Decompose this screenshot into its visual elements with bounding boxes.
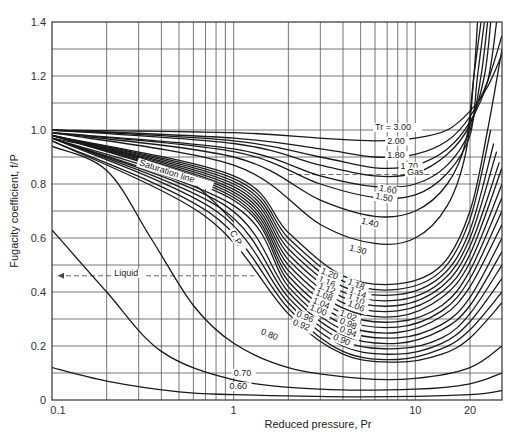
curve-label: 0.80 bbox=[259, 326, 279, 342]
y-axis-ticks: 00.20.40.60.81.01.21.4 bbox=[31, 16, 46, 406]
y-tick-label: 1.0 bbox=[31, 124, 46, 136]
y-axis-title: Fugacity coefficient, f/P bbox=[8, 154, 20, 268]
y-tick-label: 0.2 bbox=[31, 340, 46, 352]
curve-tr-1.20 bbox=[52, 49, 502, 285]
curve-label: 1.40 bbox=[360, 215, 380, 229]
curve-tr-0.92 bbox=[52, 141, 502, 360]
x-axis-ticks: 0.111020 bbox=[50, 404, 476, 416]
x-tick-label: 1 bbox=[231, 404, 237, 416]
y-tick-label: 1.4 bbox=[31, 16, 46, 28]
curve-label: Liquid bbox=[114, 268, 138, 278]
x-tick-label: 10 bbox=[409, 404, 421, 416]
curve-tr-1.40 bbox=[52, 22, 481, 217]
curve-tr-3.00 bbox=[52, 54, 502, 140]
y-tick-label: 0.4 bbox=[31, 286, 46, 298]
curve-tr-1.02 bbox=[52, 138, 502, 333]
curve-label: 1.80 bbox=[387, 150, 405, 160]
arrow-left-icon bbox=[58, 273, 64, 279]
curve-label: 0.60 bbox=[230, 381, 248, 391]
curve-tr-1.80 bbox=[52, 22, 497, 168]
curve-label: Gas bbox=[407, 167, 424, 177]
curve-label: 1.30 bbox=[348, 242, 368, 256]
y-tick-label: 0.6 bbox=[31, 232, 46, 244]
y-tick-label: 0 bbox=[40, 394, 46, 406]
grid bbox=[52, 22, 502, 400]
y-tick-label: 1.2 bbox=[31, 70, 46, 82]
x-axis-title: Reduced pressure, Pr bbox=[265, 418, 372, 430]
curve-label: 1.50 bbox=[375, 191, 394, 204]
fugacity-chart: Tr = 3.002.001.801.701.601.501.401.301.2… bbox=[0, 0, 516, 445]
y-tick-label: 0.8 bbox=[31, 178, 46, 190]
curve-label: 0.70 bbox=[234, 368, 252, 378]
x-tick-label: 0.1 bbox=[50, 404, 65, 416]
curve-label: 2.00 bbox=[387, 136, 405, 146]
curve-label: Tr = 3.00 bbox=[375, 122, 411, 132]
x-tick-label: 20 bbox=[464, 404, 476, 416]
curve-tr-0.60 bbox=[52, 368, 502, 397]
